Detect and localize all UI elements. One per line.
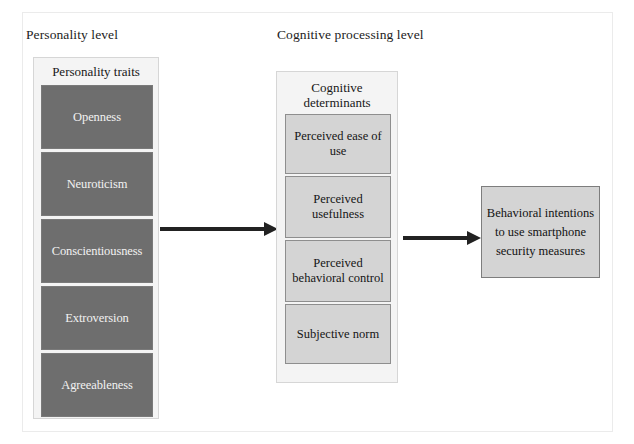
determinant-label: Subjective norm xyxy=(297,327,379,342)
determinant-label: Perceived usefulness xyxy=(288,192,388,222)
trait-label: Agreeableness xyxy=(61,378,133,393)
arrow-shaft xyxy=(403,236,468,240)
personality-traits-panel: Personality traits Openness Neuroticism … xyxy=(33,57,159,419)
determinant-box-perceived-usefulness[interactable]: Perceived usefulness xyxy=(285,176,391,238)
trait-box-neuroticism[interactable]: Neuroticism xyxy=(41,152,153,216)
personality-traits-list: Openness Neuroticism Conscientiousness E… xyxy=(41,85,153,417)
determinant-label: Perceived behavioral control xyxy=(288,256,388,286)
arrow-head-icon xyxy=(467,231,481,245)
trait-box-agreeableness[interactable]: Agreeableness xyxy=(41,353,153,417)
trait-label: Openness xyxy=(73,110,121,125)
arrow-shaft xyxy=(160,227,265,231)
trait-label: Conscientiousness xyxy=(52,244,143,259)
trait-box-openness[interactable]: Openness xyxy=(41,85,153,149)
outcome-box-behavioral-intentions[interactable]: Behavioral intentions to use smartphone … xyxy=(481,186,600,278)
determinant-box-perceived-behavioral-control[interactable]: Perceived behavioral control xyxy=(285,240,391,302)
determinant-box-subjective-norm[interactable]: Subjective norm xyxy=(285,304,391,364)
cognitive-determinants-title: Cognitive determinants xyxy=(277,80,397,110)
personality-traits-title: Personality traits xyxy=(34,64,158,79)
determinant-box-perceived-ease-of-use[interactable]: Perceived ease of use xyxy=(285,114,391,174)
cognitive-determinants-list: Perceived ease of use Perceived usefulne… xyxy=(285,114,391,364)
determinant-label: Perceived ease of use xyxy=(288,129,388,159)
cognitive-processing-level-caption: Cognitive processing level xyxy=(277,27,424,43)
trait-box-conscientiousness[interactable]: Conscientiousness xyxy=(41,219,153,283)
cognitive-determinants-panel: Cognitive determinants Perceived ease of… xyxy=(276,71,398,383)
personality-level-caption: Personality level xyxy=(26,27,118,43)
outcome-label: Behavioral intentions to use smartphone … xyxy=(486,204,595,261)
trait-label: Neuroticism xyxy=(67,177,128,192)
trait-box-extroversion[interactable]: Extroversion xyxy=(41,286,153,350)
concept-diagram: Personality level Cognitive processing l… xyxy=(0,0,634,444)
trait-label: Extroversion xyxy=(65,311,128,326)
